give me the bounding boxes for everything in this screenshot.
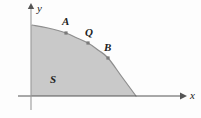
point-label-q: Q <box>85 27 93 38</box>
arrow-up-icon <box>28 3 34 9</box>
shaded-region-s <box>31 25 136 96</box>
region-label-s: S <box>50 74 56 85</box>
point-label-b: B <box>104 42 111 53</box>
y-axis-label: y <box>37 3 42 14</box>
arrow-right-icon <box>180 93 187 100</box>
point-marker-q <box>86 41 89 44</box>
point-marker-a <box>64 31 67 34</box>
point-marker-b <box>106 56 109 59</box>
point-label-a: A <box>62 16 69 27</box>
figure-canvas: y x A Q B S <box>0 0 201 118</box>
diagram-svg <box>0 0 201 118</box>
x-axis-label: x <box>190 90 195 101</box>
